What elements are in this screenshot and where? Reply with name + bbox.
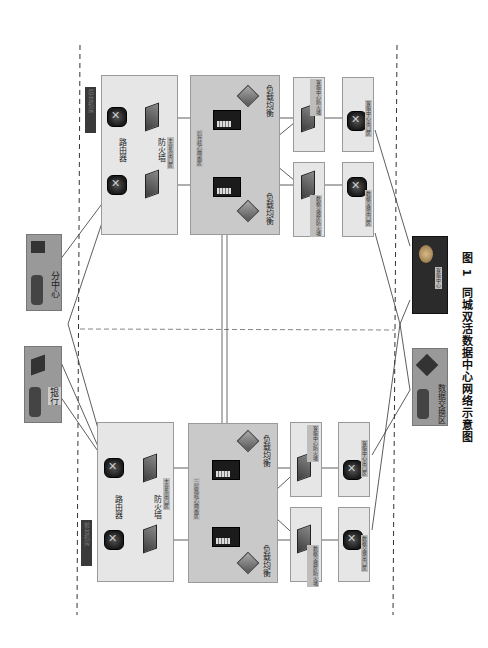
people-icon [417,389,429,419]
router-label: 路由器 [112,495,123,519]
core-switch-icon [212,460,240,480]
figure-number: 图 1 [460,252,473,277]
branch-center-label: 分中心 [49,271,62,298]
core-zone-tag: 三层路核心网络区 [193,478,200,520]
firewall-label: 防火墙 [151,495,162,519]
people-icon [31,275,43,305]
firewall-label: 防火墙 [155,138,166,162]
server-icon [416,354,439,377]
firewall-icon [145,169,159,198]
router-icon [347,111,367,131]
service-exit-label: 客服中心出口区 [365,100,372,137]
dc-tag-upper: 后台机房 [85,87,96,133]
service-exit-label: 客服中心出口区 [361,440,368,477]
people-icon [419,245,433,263]
router-icon [347,177,367,197]
service-fw-label: 客服中心防火墙 [310,79,322,116]
load-balancer-label: 负载均衡 [260,545,271,577]
service-center-label: 客服中心 [435,267,442,289]
firewall-icon [145,102,159,131]
load-balancer-label: 负载均衡 [260,435,271,467]
router-icon [104,458,124,478]
bank-node: 银行 [24,346,62,423]
firewall-icon [143,453,157,482]
core-zone-tag: 后台核心网络区 [196,130,203,167]
core-switch-icon [213,177,241,197]
bank-label: 银行 [48,387,61,405]
exchange-fw-label: 数据交换区防火墙 [310,195,322,237]
data-exchange-node: 数据交换区 [412,348,448,426]
router-icon [104,530,124,550]
router-icon [107,175,127,195]
router-icon [343,530,363,550]
server-icon [31,354,45,375]
service-center-node: 客服中心 [412,236,448,314]
exchange-exit-label: 数据交换出口区 [365,190,372,227]
exchange-exit-label: 数据交换出口区 [361,535,368,572]
server-icon [31,241,45,253]
service-fw-label: 客服中心防火墙 [307,425,319,462]
figure-title: 同城双活数据中心网络示意图 [460,287,473,443]
firewall-icon [143,524,157,553]
router-icon [107,107,127,127]
main-exit-zone-tag: 主业务出口区 [167,137,174,169]
load-balancer-label: 负载均衡 [263,85,274,117]
router-label: 路由器 [116,138,127,162]
dc-tag-lower: 前台机房 [81,520,92,566]
people-icon [29,387,41,417]
figure-caption: 图 1 同城双活数据中心网络示意图 [458,252,474,443]
exchange-fw-label: 数据交换区防火墙 [307,545,319,587]
data-exchange-label: 数据交换区 [435,384,446,424]
main-exit-zone-tag: 主业务出口区 [163,478,170,510]
branch-center-node: 分中心 [26,234,62,311]
load-balancer-label: 负载均衡 [263,193,274,225]
core-switch-icon [212,527,240,547]
core-switch-icon [213,110,241,130]
router-icon [343,460,363,480]
